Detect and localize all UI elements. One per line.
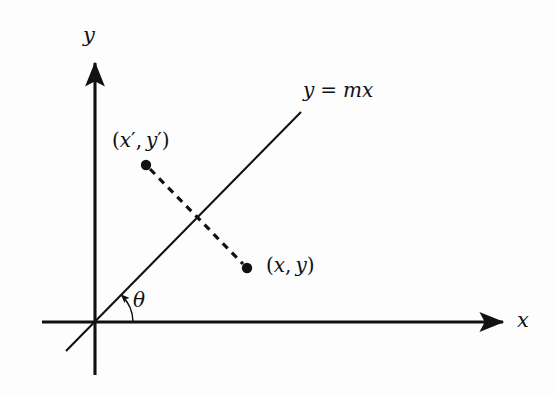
image-var-y: y bbox=[146, 128, 157, 152]
source-var-x: x bbox=[274, 253, 285, 277]
angle-arc bbox=[122, 295, 133, 322]
geometry-diagram bbox=[0, 0, 557, 397]
eq-slope: m bbox=[343, 78, 362, 102]
y-axis-label: y bbox=[83, 25, 95, 46]
image-prime-x: ′ bbox=[131, 128, 136, 152]
eq-operator: = bbox=[320, 78, 337, 102]
paren-close: ) bbox=[162, 128, 170, 152]
eq-var: x bbox=[362, 78, 373, 102]
point-image-marker bbox=[141, 160, 151, 170]
eq-lhs: y bbox=[303, 78, 314, 102]
line-equation-label: y=mx bbox=[303, 80, 373, 100]
image-var-x: x bbox=[120, 128, 131, 152]
paren-open: ( bbox=[266, 253, 274, 277]
source-comma: , bbox=[285, 253, 291, 277]
angle-label: θ bbox=[133, 290, 145, 310]
paren-open: ( bbox=[112, 128, 120, 152]
line-y-equals-mx bbox=[66, 112, 301, 351]
image-comma: , bbox=[136, 128, 142, 152]
point-image-label: (x′,y′) bbox=[112, 130, 170, 150]
figure-canvas: y x y=mx (x′,y′) (x,y) θ bbox=[0, 0, 557, 397]
point-source-label: (x,y) bbox=[266, 255, 315, 275]
source-var-y: y bbox=[295, 253, 306, 277]
paren-close: ) bbox=[307, 253, 315, 277]
reflection-segment bbox=[150, 169, 243, 264]
x-axis-label: x bbox=[517, 310, 529, 331]
point-source-marker bbox=[242, 263, 252, 273]
